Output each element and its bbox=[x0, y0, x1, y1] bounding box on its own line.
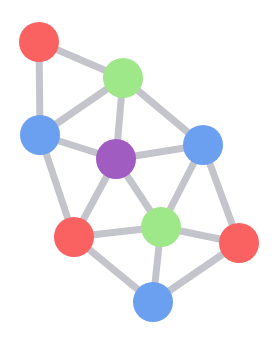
node-red-n8 bbox=[219, 223, 259, 263]
node-purple-n4 bbox=[96, 139, 136, 179]
node-green-n2 bbox=[103, 58, 143, 98]
node-red-n7 bbox=[54, 217, 94, 257]
node-blue-n9 bbox=[133, 282, 173, 322]
network-graph bbox=[0, 0, 280, 341]
node-blue-n5 bbox=[183, 125, 223, 165]
node-blue-n3 bbox=[20, 115, 60, 155]
node-red-n1 bbox=[19, 22, 59, 62]
node-green-n6 bbox=[141, 207, 181, 247]
